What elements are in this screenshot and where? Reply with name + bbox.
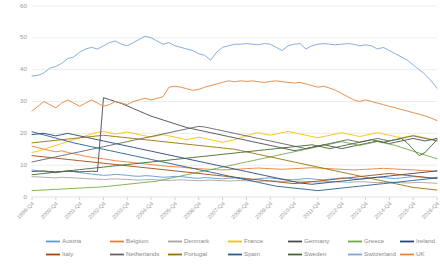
x-tick-label: 2005-Q4 [159,200,179,220]
series-line-switzerland [32,36,437,88]
legend-label-greece[interactable]: Greece [364,237,385,244]
series-line-belgium [32,146,437,171]
legend-label-switzerland[interactable]: Switzerland [364,250,397,257]
legend-label-portugal[interactable]: Portugal [184,250,207,257]
x-tick-label: 2000-Q4 [39,200,59,220]
series-line-portugal [32,135,437,190]
x-axis-tick-marks [32,197,437,200]
line-chart: 0102030405060 1999-Q42000-Q42001-Q42002-… [0,0,440,272]
legend-label-spain[interactable]: Spain [244,250,260,257]
legend-label-france[interactable]: France [244,237,264,244]
legend-label-ireland[interactable]: Ireland [416,237,435,244]
x-tick-label: 2015-Q4 [397,200,417,220]
x-tick-label: 2007-Q4 [206,200,226,220]
x-tick-label: 2010-Q4 [278,200,298,220]
series-line-uk [32,81,437,121]
y-tick-label: 30 [20,97,27,104]
legend-label-sweden[interactable]: Sweden [304,250,327,257]
x-tick-label: 2006-Q4 [182,200,202,220]
legend-label-belgium[interactable]: Belgium [126,237,148,244]
x-tick-label: 2004-Q4 [135,200,155,220]
legend-label-netherlands[interactable]: Netherlands [126,250,159,257]
x-tick-label: 2009-Q4 [254,200,274,220]
y-tick-label: 20 [20,129,27,136]
x-tick-label: 2012-Q4 [325,200,345,220]
x-tick-label: 2001-Q4 [63,200,83,220]
y-tick-label: 0 [24,193,28,200]
x-tick-label: 2008-Q4 [230,200,250,220]
legend-label-italy[interactable]: Italy [62,250,74,257]
x-tick-label: 2014-Q4 [373,200,393,220]
series-line-netherlands [32,126,437,162]
x-axis-tick-labels: 1999-Q42000-Q42001-Q42002-Q42003-Q42004-… [16,200,440,220]
chart-canvas: 0102030405060 1999-Q42000-Q42001-Q42002-… [0,0,440,272]
x-tick-label: 2016-Q4 [421,200,440,220]
x-tick-label: 2002-Q4 [87,200,107,220]
legend-label-germany[interactable]: Germany [304,237,330,244]
x-tick-label: 2003-Q4 [111,200,131,220]
x-tick-label: 1999-Q4 [16,200,36,220]
legend-label-austria[interactable]: Austria [62,237,82,244]
x-tick-label: 2013-Q4 [349,200,369,220]
y-tick-label: 10 [20,161,27,168]
legend-label-uk[interactable]: UK [416,250,425,257]
y-tick-label: 50 [20,33,27,40]
y-tick-label: 40 [20,65,27,72]
series-line-germany [32,98,437,172]
data-series-group [32,36,437,190]
chart-legend: AustriaBelgiumDenmarkFranceGermanyGreece… [46,237,435,257]
y-tick-label: 60 [20,2,27,9]
x-tick-label: 2011-Q4 [302,200,321,219]
y-axis-tick-labels: 0102030405060 [20,2,27,200]
legend-label-denmark[interactable]: Denmark [184,237,210,244]
